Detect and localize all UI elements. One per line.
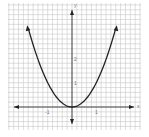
grid bbox=[8, 3, 141, 130]
parabola-graph bbox=[0, 0, 149, 137]
y-axis-label: y bbox=[74, 3, 77, 8]
x-tick-1: 1 bbox=[95, 110, 98, 115]
x-axis-label: x bbox=[137, 104, 140, 109]
y-tick-1: 1 bbox=[74, 81, 77, 86]
x-tick-neg1: -1 bbox=[45, 110, 49, 115]
y-tick-2: 2 bbox=[74, 57, 77, 62]
